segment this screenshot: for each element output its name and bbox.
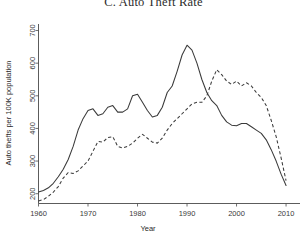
chart-axes	[39, 24, 301, 204]
x-tick-label: 2000	[228, 209, 245, 218]
chart-figure: C. Auto Theft Rate 200300400500600700 19…	[0, 0, 307, 237]
x-tick-label: 1960	[30, 209, 47, 218]
chart-plot-area: 200300400500600700 196019701980199020002…	[0, 0, 307, 237]
x-axis-ticks: 196019701980199020002010	[30, 204, 294, 218]
x-tick-label: 1970	[80, 209, 97, 218]
y-tick-label: 500	[29, 90, 38, 103]
series-line-solid	[39, 45, 287, 192]
y-tick-label: 200	[29, 187, 38, 200]
y-axis-title: Auto thefts per 100K population	[4, 60, 13, 165]
y-tick-label: 700	[29, 24, 38, 37]
y-tick-label: 300	[29, 155, 38, 168]
y-tick-label: 600	[29, 57, 38, 70]
x-tick-label: 1990	[179, 209, 196, 218]
x-axis-title: Year	[140, 224, 156, 233]
x-tick-label: 1980	[129, 209, 146, 218]
x-tick-label: 2010	[278, 209, 295, 218]
series-line-dashed	[39, 70, 287, 201]
y-tick-label: 400	[29, 122, 38, 135]
y-axis-ticks: 200300400500600700	[29, 24, 39, 200]
